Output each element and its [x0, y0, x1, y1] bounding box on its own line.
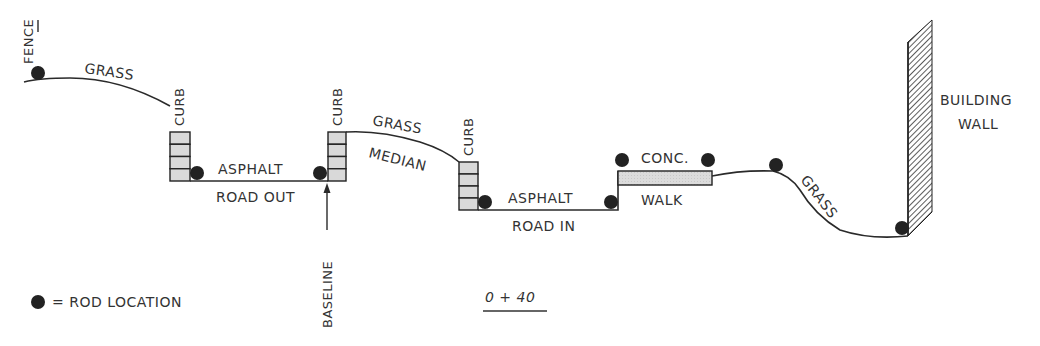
rod-location-dot	[313, 166, 327, 180]
road-in-label: ROAD IN	[512, 218, 575, 234]
building-label: BUILDING	[940, 92, 1012, 108]
baseline-label: BASELINE	[320, 261, 335, 328]
curb-1	[170, 132, 190, 181]
fence-label: FENCE	[21, 19, 36, 64]
legend-text: = ROD LOCATION	[52, 294, 182, 310]
station-label: 0 + 40	[485, 289, 535, 305]
curb-1-label: CURB	[172, 87, 187, 126]
rod-location-dot	[31, 66, 45, 80]
baseline-arrow	[324, 183, 331, 230]
rod-location-dot	[615, 153, 629, 167]
legend: = ROD LOCATION	[31, 294, 182, 310]
legend-rod-dot-icon	[31, 295, 45, 309]
rod-location-dot	[478, 195, 492, 209]
rod-location-dot	[769, 158, 783, 172]
asphalt-out-label: ASPHALT	[218, 161, 283, 177]
concrete-walk-slab	[618, 171, 712, 185]
curb-3-label: CURB	[461, 117, 476, 156]
building-wall	[908, 20, 932, 236]
rod-location-dot	[895, 221, 909, 235]
cross-section-diagram: FENCE GRASS CURB ASPHALT ROAD OUT CURB B…	[0, 0, 1040, 346]
wall-label: WALL	[958, 116, 998, 132]
walk-label: WALK	[641, 192, 683, 208]
rod-location-dot	[701, 153, 715, 167]
median-label: MEDIAN	[367, 144, 428, 174]
road-out-label: ROAD OUT	[216, 189, 295, 205]
curb-2-label: CURB	[330, 87, 345, 126]
conc-label: CONC.	[641, 150, 689, 166]
rod-location-dot	[190, 166, 204, 180]
ground-grass-left	[24, 78, 170, 106]
curb-3	[459, 162, 478, 210]
asphalt-in-label: ASPHALT	[508, 190, 573, 206]
curb-2	[328, 132, 346, 181]
rod-location-dot	[604, 195, 618, 209]
